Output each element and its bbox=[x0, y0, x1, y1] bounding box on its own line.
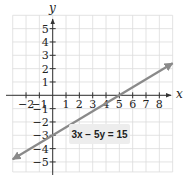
coordinate-plane-chart: −2−112345678−5−4−3−2−112345 3x − 5y = 15… bbox=[0, 0, 188, 180]
x-axis-label: x bbox=[176, 87, 183, 101]
y-tick-label: −1 bbox=[32, 103, 48, 116]
equation-label: 3x − 5y = 15 bbox=[71, 129, 128, 140]
x-tick-label: 2 bbox=[76, 98, 83, 111]
y-tick-label: 5 bbox=[42, 23, 49, 36]
y-tick-label: 2 bbox=[42, 63, 49, 76]
x-tick-label: 8 bbox=[156, 98, 163, 111]
x-tick-label: 5 bbox=[116, 98, 123, 111]
y-tick-label: 1 bbox=[42, 76, 49, 89]
x-tick-label: 1 bbox=[63, 98, 70, 111]
y-tick-label: −5 bbox=[32, 156, 48, 169]
y-tick-label: 3 bbox=[42, 49, 49, 62]
equation-label-box: 3x − 5y = 15 bbox=[69, 124, 130, 144]
y-axis-label: y bbox=[48, 1, 56, 15]
x-tick-label: 7 bbox=[143, 98, 150, 111]
y-tick-label: −4 bbox=[32, 143, 48, 156]
x-tick-label: 6 bbox=[129, 98, 136, 111]
y-tick-label: 4 bbox=[42, 36, 49, 49]
y-tick-label: −2 bbox=[32, 116, 48, 129]
